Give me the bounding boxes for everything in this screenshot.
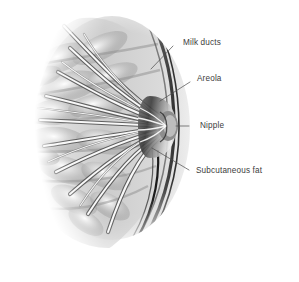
breast-anatomy-figure: Milk ducts Areola Nipple Subcutaneous fa… [0, 0, 299, 282]
label-subcutaneous-fat: Subcutaneous fat [196, 166, 263, 175]
anatomy-illustration: Milk ducts Areola Nipple Subcutaneous fa… [0, 0, 299, 282]
label-milk-ducts: Milk ducts [183, 38, 221, 47]
label-areola: Areola [197, 74, 222, 83]
breast-tissue-body [16, 12, 200, 256]
label-nipple: Nipple [200, 121, 224, 130]
